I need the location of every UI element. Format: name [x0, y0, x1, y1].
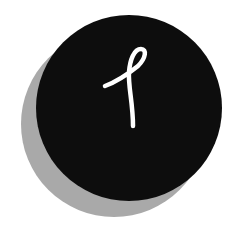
logo-circle — [36, 15, 222, 201]
logo-graphic: ℓ — [0, 0, 236, 233]
logo-badge: ℓ — [0, 0, 236, 233]
